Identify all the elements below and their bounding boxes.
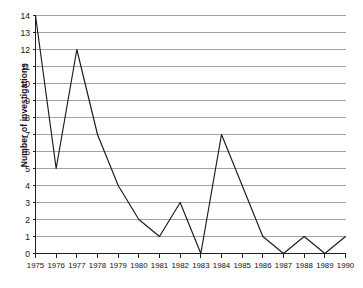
- y-tick-label: 11: [21, 62, 30, 72]
- x-tick-label: 1988: [295, 261, 312, 270]
- y-tick-label: 10: [21, 79, 31, 89]
- x-tick-label: 1982: [171, 261, 188, 270]
- x-tick-label: 1985: [233, 261, 251, 270]
- line-chart-plot: 01234567891011121314 1975197619771978197…: [0, 0, 363, 288]
- y-tick-label: 4: [25, 181, 30, 191]
- x-tick-label: 1990: [337, 261, 355, 270]
- y-tick-label: 13: [21, 28, 31, 38]
- y-tick-label: 1: [25, 232, 30, 242]
- x-tick-label: 1987: [275, 261, 292, 270]
- x-tick-labels-group: 1975197619771978197919801981198219831984…: [27, 261, 355, 270]
- y-tick-label: 5: [25, 164, 30, 174]
- y-tick-labels-group: 01234567891011121314: [21, 11, 31, 259]
- y-tick-label: 8: [25, 113, 30, 123]
- x-tick-label: 1980: [130, 261, 148, 270]
- x-tick-label: 1981: [151, 261, 168, 270]
- y-tick-label: 9: [25, 96, 30, 106]
- y-tick-label: 2: [25, 215, 30, 225]
- chart-figure: Number of investigations 012345678910111…: [0, 0, 363, 288]
- x-tick-label: 1977: [68, 261, 85, 270]
- x-tick-label: 1978: [89, 261, 106, 270]
- x-tick-marks-group: [36, 254, 346, 258]
- x-tick-label: 1983: [192, 261, 209, 270]
- y-tick-label: 14: [21, 11, 31, 21]
- y-tick-label: 3: [25, 198, 30, 208]
- gridlines-group: [36, 16, 346, 237]
- x-tick-label: 1989: [316, 261, 333, 270]
- y-tick-label: 7: [25, 130, 30, 140]
- x-tick-label: 1975: [27, 261, 45, 270]
- y-tick-label: 6: [25, 147, 30, 157]
- x-tick-label: 1986: [254, 261, 271, 270]
- y-tick-label: 0: [25, 249, 30, 259]
- x-tick-label: 1984: [213, 261, 231, 270]
- x-tick-label: 1976: [47, 261, 64, 270]
- x-tick-label: 1979: [109, 261, 126, 270]
- y-tick-label: 12: [21, 45, 31, 55]
